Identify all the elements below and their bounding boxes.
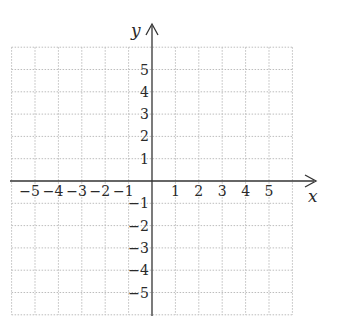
coordinate-plane: x y −5−4−3−2−112345 54321−1−2−3−4−5	[0, 0, 341, 328]
y-tick-label: −3	[128, 240, 149, 256]
y-axis-label: y	[130, 20, 141, 40]
x-tick-label: 3	[218, 183, 227, 199]
x-tick-label: −4	[43, 183, 64, 199]
y-tick-label: −1	[128, 195, 149, 211]
y-tick-label: 1	[140, 151, 149, 167]
x-tick-label: −2	[90, 183, 111, 199]
x-axis-label: x	[308, 186, 318, 206]
x-tick-label: 4	[241, 183, 250, 199]
y-tick-label: −2	[128, 218, 149, 234]
x-tick-label: 1	[171, 183, 180, 199]
y-tick-label: 3	[140, 106, 149, 122]
y-tick-label: −5	[128, 285, 149, 301]
y-tick-label: 4	[140, 84, 149, 100]
x-tick-label: 5	[265, 183, 274, 199]
x-tick-label: −3	[66, 183, 87, 199]
x-tick-label: 2	[194, 183, 203, 199]
x-tick-label: −5	[19, 183, 40, 199]
y-tick-label: 2	[140, 128, 149, 144]
y-tick-label: 5	[140, 62, 149, 78]
y-tick-label: −4	[128, 262, 149, 278]
